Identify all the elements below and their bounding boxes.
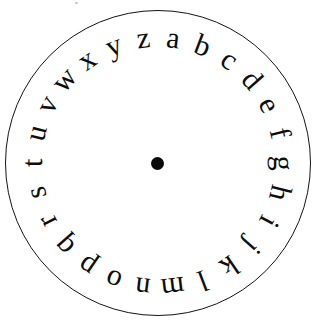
cipher-wheel: abcdefghijklmnopqrstuvwxyz	[0, 0, 319, 330]
letter-glyph: z	[124, 19, 162, 57]
center-pivot-dot	[151, 157, 164, 170]
scan-speck-artifact	[75, 2, 78, 4]
